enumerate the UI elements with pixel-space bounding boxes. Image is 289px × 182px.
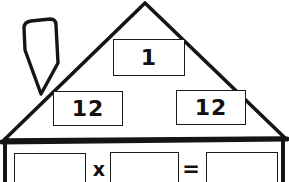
equation-blank-result[interactable] [206, 152, 278, 182]
equals-operator: = [180, 159, 202, 180]
fact-family-house-worksheet: 1 12 12 x = [0, 0, 289, 182]
roof-box-right-value: 12 [195, 97, 228, 119]
multiplication-operator: x [89, 160, 109, 179]
roof-box-top-value: 1 [141, 47, 157, 69]
eave-band [2, 139, 287, 142]
roof-box-top[interactable]: 1 [113, 39, 185, 76]
equation-blank-first[interactable] [14, 153, 86, 182]
roof-box-right[interactable]: 12 [176, 90, 246, 125]
roof-box-left[interactable]: 12 [53, 91, 123, 126]
roof-box-left-value: 12 [72, 98, 105, 120]
chimney [24, 19, 58, 94]
equation-blank-second[interactable] [110, 152, 179, 182]
